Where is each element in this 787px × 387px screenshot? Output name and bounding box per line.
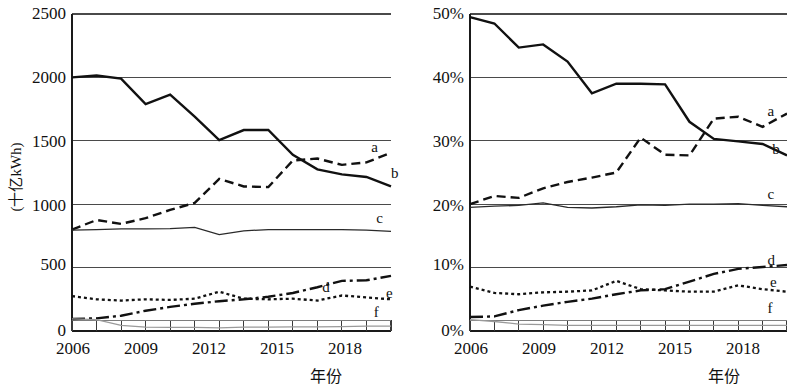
left-series-label-d: d: [322, 280, 330, 295]
right-series-label-a: a: [767, 104, 774, 119]
right-series-label-d: d: [767, 253, 775, 268]
right-series-label-b: b: [772, 142, 780, 157]
left-series-label-c: c: [376, 211, 383, 226]
figure-two-panel-line-charts: (十亿kWh) 2500 2000 1500 1000 500 0 2006 2…: [0, 0, 787, 387]
right-series-label-c: c: [767, 187, 774, 202]
right-series-label-e: e: [770, 275, 777, 290]
left-plot-surface: [0, 0, 395, 387]
right-plot-surface: [392, 0, 787, 387]
chart-panel-right: 总发电量占比 50% 40% 30% 20% 10% 0% 2006 2009 …: [392, 0, 787, 387]
chart-panel-left: (十亿kWh) 2500 2000 1500 1000 500 0 2006 2…: [0, 0, 395, 387]
left-series-label-f: f: [374, 305, 379, 320]
left-series-label-a: a: [371, 140, 378, 155]
right-series-label-f: f: [767, 301, 772, 316]
